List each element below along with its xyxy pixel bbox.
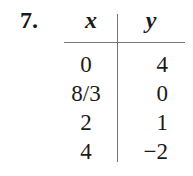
table-header-x: x: [64, 6, 118, 34]
table-row: 0 4: [0, 52, 193, 81]
cell-y: 1: [118, 110, 168, 136]
table-body: 0 4 8/3 0 2 1 4 −2: [0, 52, 193, 168]
table-row: 4 −2: [0, 139, 193, 168]
table-row: 2 1: [0, 110, 193, 139]
cell-x: 8/3: [64, 81, 108, 107]
cell-x: 4: [64, 139, 108, 165]
header-divider: [64, 42, 185, 43]
cell-x: 0: [64, 52, 108, 78]
cell-x: 2: [64, 110, 108, 136]
cell-y: −2: [118, 139, 168, 165]
table-header-y: y: [118, 6, 184, 34]
table-row: 8/3 0: [0, 81, 193, 110]
problem-number: 7.: [20, 6, 38, 34]
cell-y: 0: [118, 81, 168, 107]
cell-y: 4: [118, 52, 168, 78]
